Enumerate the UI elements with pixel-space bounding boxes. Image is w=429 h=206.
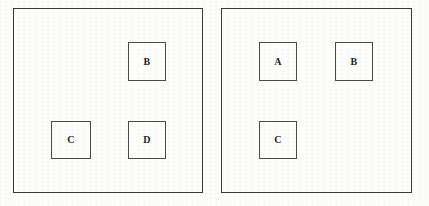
labeled-box-c: C [259,121,297,159]
labeled-box-b: B [335,42,373,81]
labeled-box-d: D [128,121,166,159]
left-panel: BCD [13,8,203,193]
box-label: B [144,57,151,67]
labeled-box-c: C [51,121,91,159]
box-label: D [143,135,150,145]
box-label: C [274,135,281,145]
labeled-box-a: A [259,42,297,81]
right-panel: ABC [221,8,412,193]
two-panel-diagram: BCDABC [0,0,429,206]
box-label: B [351,57,358,67]
labeled-box-b: B [128,42,166,81]
box-label: A [274,57,281,67]
box-label: C [67,135,74,145]
